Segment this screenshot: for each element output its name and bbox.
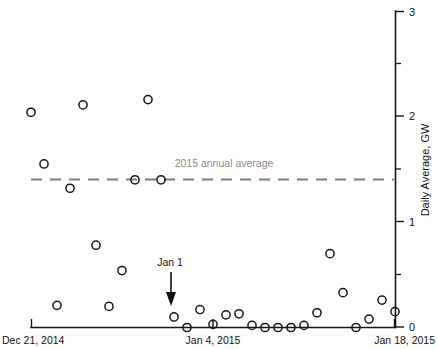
- data-point: [326, 250, 334, 258]
- data-point: [105, 302, 113, 310]
- data-point: [79, 101, 87, 109]
- data-point: [40, 160, 48, 168]
- data-point: [92, 241, 100, 249]
- x-tick-label-end: Jan 18, 2015: [374, 334, 435, 346]
- data-point: [339, 289, 347, 297]
- jan-1-label: Jan 1: [157, 256, 183, 268]
- data-point: [365, 315, 373, 323]
- data-point: [66, 184, 74, 192]
- scatter-chart: Dec 21, 2014 Jan 4, 2015 Jan 18, 2015 3 …: [0, 0, 437, 349]
- data-point: [53, 301, 61, 309]
- data-point: [378, 296, 386, 304]
- data-point: [222, 311, 230, 319]
- data-point: [118, 266, 126, 274]
- annual-average-label: 2015 annual average: [175, 157, 274, 169]
- data-point: [170, 313, 178, 321]
- y-tick-label-3: 3: [409, 6, 415, 18]
- data-point-group: [27, 96, 399, 332]
- data-point: [27, 108, 35, 116]
- x-tick-label-start: Dec 21, 2014: [2, 334, 65, 346]
- jan-1-arrow-head: [166, 292, 176, 306]
- y-axis-title: Daily Average, GW: [419, 123, 431, 216]
- data-point: [313, 309, 321, 317]
- y-tick-label-2: 2: [409, 110, 415, 122]
- data-point: [144, 96, 152, 104]
- chart-canvas: Dec 21, 2014 Jan 4, 2015 Jan 18, 2015 3 …: [0, 0, 437, 349]
- jan-1-annotation: Jan 1: [157, 256, 183, 306]
- y-tick-label-1: 1: [409, 216, 415, 228]
- data-point: [157, 176, 165, 184]
- y-axis-minor-ticks: [396, 64, 402, 275]
- data-point: [235, 310, 243, 318]
- y-tick-label-0: 0: [409, 321, 415, 333]
- data-point: [196, 305, 204, 313]
- x-tick-label-middle: Jan 4, 2015: [186, 334, 241, 346]
